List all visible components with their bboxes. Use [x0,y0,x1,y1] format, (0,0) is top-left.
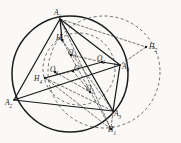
orthocenter-label-h2: H2 [149,43,157,53]
center-label-o2: O2 [97,55,105,65]
ray-o4-o1 [55,72,90,92]
vertex-label-a4: A4 [122,63,129,73]
center-label-o3: O3 [68,49,76,59]
ray-h4-h1 [45,78,111,129]
vertex-label-a2: A2 [5,99,12,109]
diag-a1-a3 [60,19,113,111]
side-a1-a2 [14,19,60,100]
center-label-o1: O1 [86,85,94,95]
point-marker-h4 [44,77,46,79]
orthocenter-label-h3: H3 [56,34,64,44]
point-marker-h2 [145,46,147,48]
vertex-label-a1: A1 [54,9,61,19]
geometry-canvas [0,0,181,143]
orthocenter-label-h4: H4 [34,75,42,85]
ray-a1-h2 [60,19,146,47]
ray-a1-h1 [60,19,111,129]
geometry-figure: A1A2A3A4OO1O2O3O4H1H2H3H4 [0,0,181,143]
orthocenter-label-h1: H1 [108,126,116,136]
center-label-o: O [74,65,79,73]
vertex-label-a3: A3 [114,110,121,120]
center-label-o4: O4 [50,66,58,76]
